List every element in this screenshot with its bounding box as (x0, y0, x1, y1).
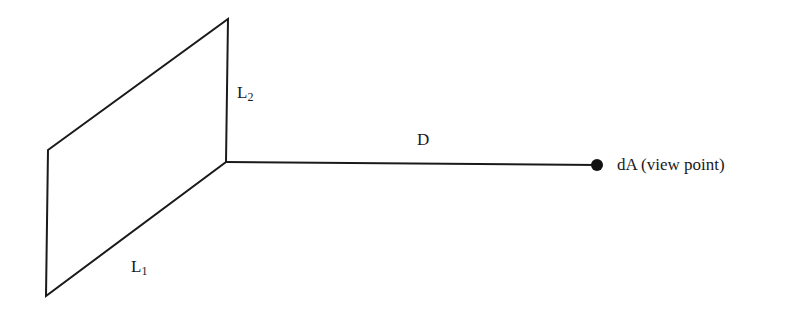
plate-outline (46, 19, 228, 296)
l2-label: L2 (237, 83, 253, 104)
distance-line (226, 162, 597, 165)
distance-label: D (417, 130, 429, 149)
view-point-dot-icon (591, 159, 603, 171)
view-factor-diagram: L2 L1 D dA (view point) (0, 0, 800, 313)
l1-label: L1 (131, 257, 147, 278)
view-point-label: dA (view point) (617, 155, 725, 174)
